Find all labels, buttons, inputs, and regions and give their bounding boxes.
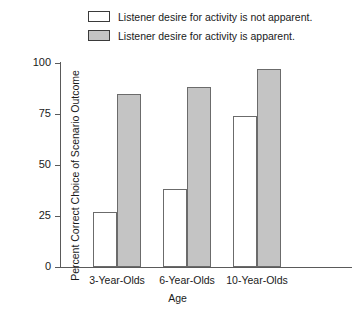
- legend-item: Listener desire for activity is apparent…: [88, 27, 338, 44]
- y-axis-tick-label: 0: [45, 260, 51, 273]
- x-axis-group-label: 10-Year-Olds: [217, 274, 297, 287]
- bar: [117, 94, 141, 267]
- y-axis-tick-label: 100: [33, 56, 51, 69]
- plot-area: 0255075100 3-Year-Olds6-Year-Olds10-Year…: [60, 62, 352, 268]
- legend-item-label: Listener desire for activity is apparent…: [118, 30, 295, 42]
- bar: [187, 87, 211, 267]
- x-axis-group-label: 3-Year-Olds: [77, 274, 157, 287]
- bar: [233, 116, 257, 267]
- y-axis-tick: 25: [55, 216, 61, 217]
- chart-legend: Listener desire for activity is not appa…: [88, 8, 338, 46]
- legend-item-label: Listener desire for activity is not appa…: [118, 11, 312, 23]
- filled-gray-square-swatch-icon: [88, 30, 110, 41]
- open-square-swatch-icon: [88, 11, 110, 22]
- x-axis-line: [60, 267, 352, 268]
- x-axis-title: Age: [0, 292, 355, 305]
- y-axis-tick: 100: [55, 63, 61, 64]
- bar: [93, 212, 117, 267]
- y-axis-tick-label: 50: [39, 158, 51, 171]
- y-axis-title: Percent Correct Choice of Scenario Outco…: [69, 64, 82, 288]
- y-axis-tick-label: 25: [39, 209, 51, 222]
- y-axis-tick: 75: [55, 114, 61, 115]
- y-axis-tick-label: 75: [39, 107, 51, 120]
- legend-item: Listener desire for activity is not appa…: [88, 8, 338, 25]
- y-axis-tick: 50: [55, 165, 61, 166]
- bar-chart-figure: Listener desire for activity is not appa…: [0, 0, 355, 314]
- bar: [257, 69, 281, 267]
- bar: [163, 189, 187, 267]
- y-axis-tick: 0: [55, 267, 61, 268]
- x-axis-group-label: 6-Year-Olds: [147, 274, 227, 287]
